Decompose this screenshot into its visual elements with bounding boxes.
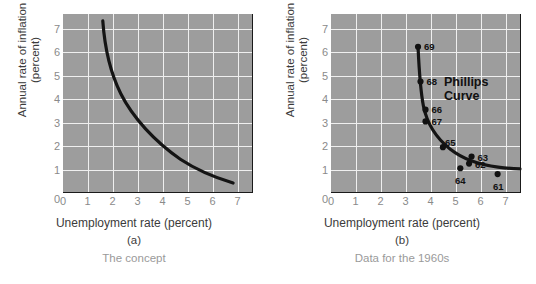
panel-a-caption: The concept — [0, 252, 268, 264]
panel-b-y-axis-title: Annual rate of inflation (percent) — [284, 0, 310, 140]
panel-a-y-ticks: 7 6 5 4 3 2 1 0 — [46, 14, 60, 193]
y-tick-label: 3 — [46, 118, 60, 129]
x-tick-label: 2 — [374, 196, 388, 207]
y-tick-label: 7 — [46, 24, 60, 35]
x-tick-label: 3 — [399, 196, 413, 207]
data-point-label-65: 65 — [445, 138, 456, 148]
data-point-label-68: 68 — [427, 77, 438, 87]
x-tick-label: 0 — [56, 196, 70, 207]
x-tick-label: 2 — [106, 196, 120, 207]
data-point-label-67: 67 — [432, 117, 443, 127]
y-tick-label: 3 — [314, 118, 328, 129]
y-tick-label: 2 — [314, 141, 328, 152]
data-point-label-61: 61 — [493, 182, 504, 192]
y-tick-label: 5 — [46, 71, 60, 82]
panel-b-x-ticks: 0 1 2 3 4 5 6 7 — [324, 196, 528, 212]
y-tick-label: 6 — [46, 47, 60, 58]
x-tick-label: 3 — [131, 196, 145, 207]
x-tick-label: 0 — [324, 196, 338, 207]
panel-b-y-ticks: 7 6 5 4 3 2 1 0 — [314, 14, 328, 193]
data-point-label-69: 69 — [424, 42, 435, 52]
x-tick-label: 7 — [499, 196, 513, 207]
x-tick-label: 1 — [349, 196, 363, 207]
panel-a-letter: (a) — [0, 234, 268, 246]
x-tick-label: 7 — [231, 196, 245, 207]
panel-b-caption: Data for the 1960s — [268, 252, 536, 264]
phillips-curve-annotation: Phillips Curve — [444, 75, 488, 103]
y-tick-label: 7 — [314, 24, 328, 35]
panel-a-plot-area — [63, 14, 253, 193]
y-tick-label: 1 — [46, 165, 60, 176]
panel-b-letter: (b) — [268, 234, 536, 246]
data-point-label-62: 62 — [475, 160, 486, 170]
y-tick-label: 2 — [46, 141, 60, 152]
x-tick-label: 5 — [181, 196, 195, 207]
panel-a-x-ticks: 0 1 2 3 4 5 6 7 — [56, 196, 260, 212]
panel-a: 7 6 5 4 3 2 1 0 0 1 2 3 4 5 6 7 Annual r… — [0, 0, 268, 284]
y-tick-label: 4 — [314, 94, 328, 105]
panel-a-curve — [63, 14, 252, 192]
y-tick-label: 5 — [314, 71, 328, 82]
x-tick-label: 4 — [156, 196, 170, 207]
panel-b-x-axis-title: Unemployment rate (percent) — [268, 216, 536, 230]
x-tick-label: 4 — [424, 196, 438, 207]
x-tick-label: 6 — [474, 196, 488, 207]
x-tick-label: 1 — [81, 196, 95, 207]
panel-a-x-axis-title: Unemployment rate (percent) — [0, 216, 268, 230]
panel-a-y-axis-title: Annual rate of inflation (percent) — [16, 0, 42, 140]
data-point-label-66: 66 — [432, 105, 443, 115]
x-tick-label: 5 — [449, 196, 463, 207]
x-tick-label: 6 — [206, 196, 220, 207]
y-tick-label: 1 — [314, 165, 328, 176]
panel-b: 69 68 66 67 65 63 62 64 61 Phillips Curv… — [268, 0, 536, 284]
y-tick-label: 4 — [46, 94, 60, 105]
data-point-label-64: 64 — [455, 176, 466, 186]
panel-b-plot-area: 69 68 66 67 65 63 62 64 61 Phillips Curv… — [331, 14, 521, 193]
phillips-curve-figure: 7 6 5 4 3 2 1 0 0 1 2 3 4 5 6 7 Annual r… — [0, 0, 536, 284]
y-tick-label: 6 — [314, 47, 328, 58]
